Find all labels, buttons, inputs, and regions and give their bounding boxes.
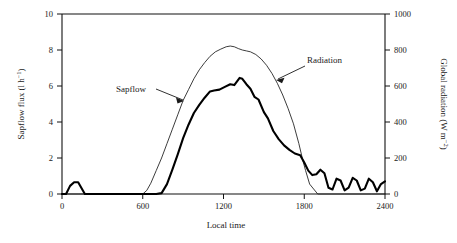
y-axis-title-exponent: −1 (15, 71, 22, 78)
y-ticklabel-8: 8 (49, 45, 53, 55)
y-ticklabel-6: 6 (49, 81, 53, 91)
x-axis-title: Local time (207, 220, 246, 230)
y2-ticklabel-200: 200 (394, 153, 407, 163)
y-axis-title-tail: ) (16, 68, 26, 71)
chart-svg: 0 2 4 6 8 10 0 200 400 600 800 1000 (0, 0, 457, 243)
y2-ticklabel-600: 600 (394, 81, 407, 91)
x-ticklabel-2400: 2400 (377, 201, 394, 211)
x-ticklabel-1800: 1800 (296, 201, 313, 211)
y-axis-title-main: Sapflow flux (l h (16, 78, 26, 140)
x-ticklabel-600: 600 (136, 201, 149, 211)
y-ticklabel-0: 0 (49, 189, 53, 199)
y2-axis-title: Global radiation (W m−2) (439, 58, 450, 149)
y-axis-title: Sapflow flux (l h−1) (15, 68, 26, 139)
y2-ticklabel-0: 0 (394, 189, 398, 199)
y2-axis-title-main: Global radiation (W m (439, 58, 449, 140)
x-ticklabel-0: 0 (60, 201, 64, 211)
y2-axis-title-tail: ) (439, 147, 449, 150)
x-ticklabel-1200: 1200 (215, 201, 232, 211)
y2-ticklabel-400: 400 (394, 117, 407, 127)
annotation-sapflow-label: Sapflow (116, 84, 146, 94)
y2-ticklabel-1000: 1000 (394, 9, 411, 19)
annotation-radiation-label: Radiation (307, 55, 342, 65)
y-ticklabel-2: 2 (49, 153, 53, 163)
y-ticklabel-10: 10 (45, 9, 54, 19)
y2-axis-title-exponent: −2 (443, 140, 450, 147)
y2-ticklabel-800: 800 (394, 45, 407, 55)
figure-container: 0 2 4 6 8 10 0 200 400 600 800 1000 (0, 0, 457, 243)
